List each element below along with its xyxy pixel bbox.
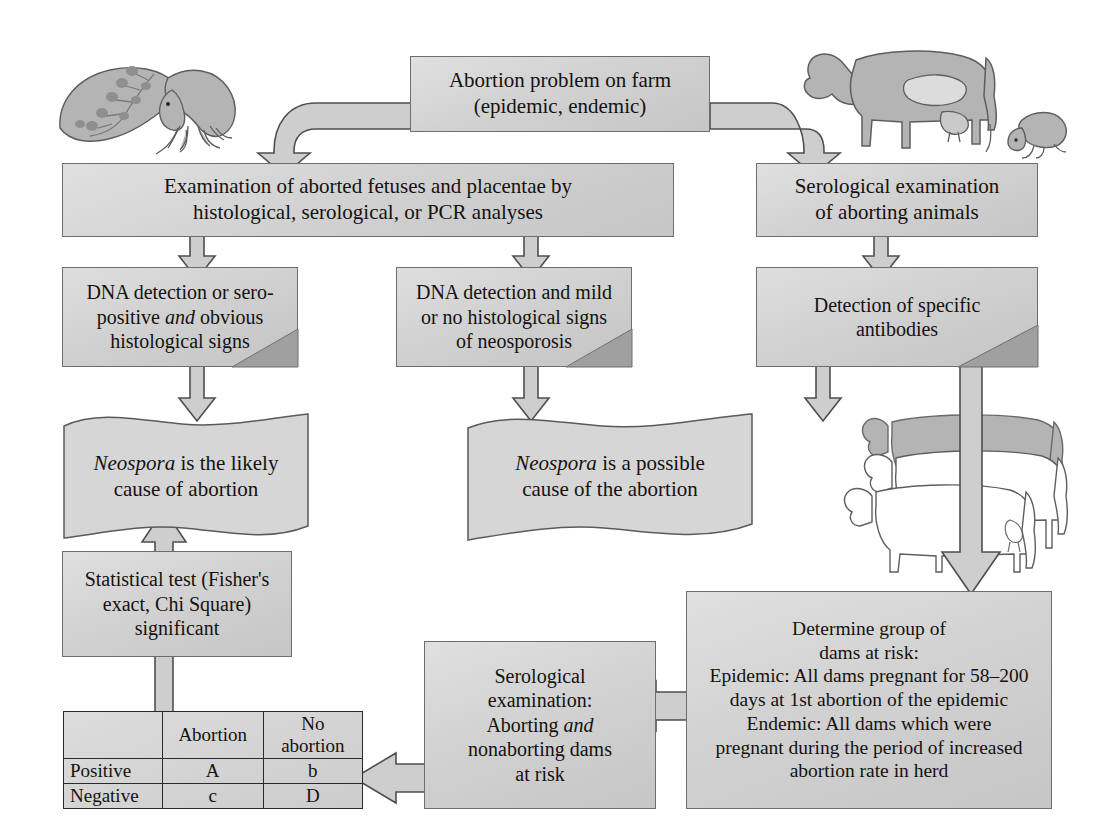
table-cell-positive-no-abortion: b (263, 759, 362, 784)
table-cell-negative-no-abortion: D (263, 784, 362, 809)
node-abortion-problem-line2: (epidemic, endemic) (474, 94, 647, 118)
node-statistical-test[interactable]: Statistical test (Fisher's exact, Chi Sq… (62, 551, 292, 657)
node-abortion-problem[interactable]: Abortion problem on farm (epidemic, ende… (410, 56, 710, 132)
node-determine-group[interactable]: Determine group of dams at risk: Epidemi… (686, 591, 1052, 809)
node-statistical-test-line2: exact, Chi Square) (103, 593, 251, 615)
node-possible-cause-organism: Neospora (515, 451, 597, 475)
node-serology-dams-line2: examination: (488, 689, 592, 711)
table-header-row: Abortion No abortion (64, 712, 363, 759)
table-header-abortion: Abortion (162, 712, 263, 759)
table-row: Negative c D (64, 784, 363, 809)
node-dna-mild-wrap: DNA detection and mild or no histologica… (396, 267, 632, 367)
node-abortion-problem-line1: Abortion problem on farm (449, 68, 671, 92)
table-row: Positive A b (64, 759, 363, 784)
node-likely-cause[interactable]: Neospora is the likely cause of abortion (62, 412, 310, 542)
node-dna-obvious-wrap: DNA detection or sero- positive and obvi… (62, 267, 298, 367)
folded-corner-icon (756, 267, 1038, 367)
node-serology-aborting-line2: of aborting animals (815, 200, 978, 224)
table-cell-negative-abortion: c (162, 784, 263, 809)
node-serology-aborting[interactable]: Serological examination of aborting anim… (756, 163, 1038, 237)
node-serology-dams-line4: nonaborting dams (468, 738, 612, 760)
node-possible-cause-wrap: Neospora is a possible cause of the abor… (466, 412, 754, 542)
node-possible-cause-line1b: is a possible (597, 451, 705, 475)
node-determine-group-line5: Endemic: All dams which were (747, 713, 992, 734)
node-likely-cause-line1b: is the likely (175, 451, 278, 475)
table-cell-positive-abortion: A (162, 759, 263, 784)
node-exam-fetuses-line1: Examination of aborted fetuses and place… (164, 174, 572, 198)
contingency-table[interactable]: Abortion No abortion Positive A b Negati… (63, 711, 363, 809)
connector-antibodies-to-possible (804, 366, 842, 422)
table-header-no-abortion: No abortion (263, 712, 362, 759)
table-corner-cell (64, 712, 163, 759)
node-exam-fetuses-line2: histological, serological, or PCR analys… (193, 200, 543, 224)
node-exam-fetuses[interactable]: Examination of aborted fetuses and place… (62, 163, 674, 237)
node-statistical-test-line3: significant (135, 617, 219, 639)
node-serology-dams[interactable]: Serological examination: Aborting and no… (424, 641, 656, 809)
node-serology-dams-line1: Serological (494, 665, 585, 687)
node-statistical-test-line1: Statistical test (Fisher's (85, 568, 270, 590)
node-likely-cause-wrap: Neospora is the likely cause of abortion (62, 412, 310, 542)
node-determine-group-line6: pregnant during the period of increased (715, 737, 1022, 758)
node-possible-cause[interactable]: Neospora is a possible cause of the abor… (466, 412, 754, 542)
node-determine-group-line3: Epidemic: All dams pregnant for 58–200 (710, 665, 1029, 686)
flowchart-diagram: Abortion problem on farm (epidemic, ende… (0, 0, 1115, 840)
table-row-label-negative: Negative (64, 784, 163, 809)
folded-corner-icon (396, 267, 632, 367)
node-determine-group-line2: dams at risk: (819, 642, 919, 663)
table-row-label-positive: Positive (64, 759, 163, 784)
node-determine-group-line7: abortion rate in herd (790, 760, 949, 781)
node-antibodies-wrap: Detection of specific antibodies (756, 267, 1038, 367)
node-likely-cause-line2: cause of abortion (114, 477, 259, 501)
node-serology-aborting-line1: Serological examination (795, 174, 1000, 198)
connector-antibodies-to-determine-group (940, 366, 1002, 596)
node-serology-dams-line5: at risk (515, 763, 564, 785)
node-determine-group-line4: days at 1st abortion of the epidemic (730, 689, 1008, 710)
node-serology-dams-line3b: and (564, 714, 594, 736)
node-likely-cause-organism: Neospora (94, 451, 176, 475)
node-determine-group-line1: Determine group of (792, 618, 946, 639)
folded-corner-icon (62, 267, 298, 367)
node-possible-cause-line2: cause of the abortion (522, 477, 698, 501)
node-serology-dams-line3a: Aborting (486, 714, 563, 736)
